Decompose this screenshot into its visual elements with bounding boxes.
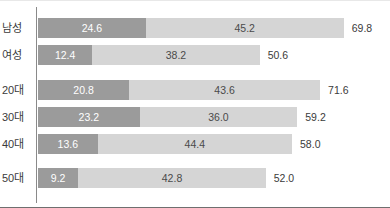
bar-segment-secondary-value: 44.4 (98, 134, 292, 154)
chart-row: 20대20.843.671.6 (0, 79, 390, 101)
stacked-bar-chart: 남성24.645.269.8여성12.438.250.620대20.843.67… (0, 0, 390, 208)
bar-total-value: 52.0 (274, 168, 294, 188)
row-category-label: 50대 (0, 167, 32, 189)
bar-segment-secondary-value: 38.2 (92, 45, 259, 65)
chart-row: 남성24.645.269.8 (0, 17, 390, 39)
bar-segment-primary-value: 20.8 (38, 80, 129, 100)
bar-segment-primary-value: 12.4 (38, 45, 92, 65)
bar-segment-primary-value: 9.2 (38, 168, 78, 188)
row-category-label: 30대 (0, 106, 32, 128)
bar-segment-secondary-value: 45.2 (146, 18, 344, 38)
bar-total-value: 50.6 (268, 45, 288, 65)
bar-total-value: 58.0 (300, 134, 320, 154)
row-category-label: 20대 (0, 79, 32, 101)
row-category-label: 40대 (0, 133, 32, 155)
bar-total-value: 71.6 (328, 80, 348, 100)
bar-segment-secondary-value: 42.8 (78, 168, 265, 188)
bar-segment-primary-value: 24.6 (38, 18, 146, 38)
chart-row: 50대9.242.852.0 (0, 167, 390, 189)
bar-segment-primary-value: 23.2 (38, 107, 140, 127)
chart-row: 40대13.644.458.0 (0, 133, 390, 155)
row-category-label: 남성 (0, 17, 32, 39)
chart-row: 30대23.236.059.2 (0, 106, 390, 128)
chart-row: 여성12.438.250.6 (0, 44, 390, 66)
row-category-label: 여성 (0, 44, 32, 66)
bar-segment-secondary-value: 36.0 (140, 107, 298, 127)
bar-segment-secondary-value: 43.6 (129, 80, 320, 100)
plot-area: 남성24.645.269.8여성12.438.250.620대20.843.67… (0, 1, 390, 207)
bar-total-value: 69.8 (352, 18, 372, 38)
bar-total-value: 59.2 (305, 107, 325, 127)
bar-segment-primary-value: 13.6 (38, 134, 98, 154)
